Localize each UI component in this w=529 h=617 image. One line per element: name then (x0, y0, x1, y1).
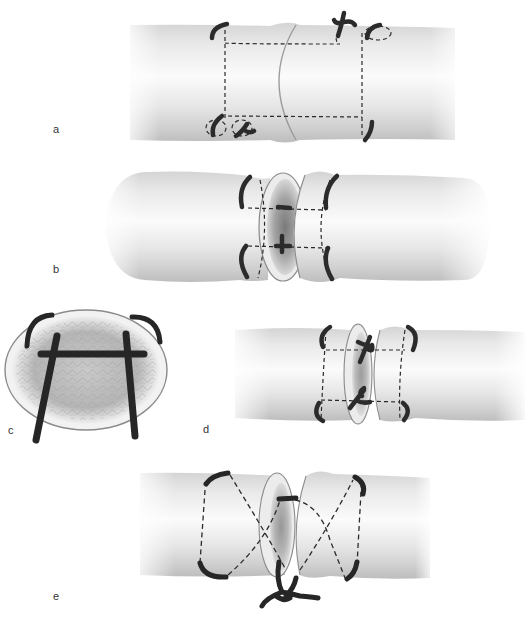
vessel-a (120, 20, 470, 145)
panel-b (95, 165, 495, 285)
panel-label-c: c (8, 425, 14, 436)
suture-segment (278, 207, 290, 208)
panel-a (120, 13, 470, 145)
vessel-b-right (294, 170, 495, 285)
panel-c (5, 310, 167, 440)
panel-e (130, 468, 435, 606)
panel-label-d: d (203, 424, 209, 435)
vessel-d-right (374, 325, 529, 425)
suture-segment (279, 498, 296, 499)
figure-canvas (0, 0, 529, 617)
panel-label-b: b (53, 264, 59, 275)
panel-label-a: a (53, 124, 59, 135)
vessel-e-left (130, 468, 295, 578)
figure: a b c d e (0, 0, 529, 617)
panel-d (225, 324, 529, 425)
vessel-b-left (95, 165, 307, 285)
panel-label-e: e (53, 591, 59, 602)
